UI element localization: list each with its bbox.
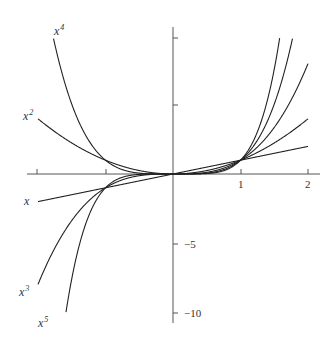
label-x5: x5 (37, 315, 48, 330)
label-x: x (23, 194, 30, 208)
x-tick-label-1: 1 (238, 178, 244, 190)
label-x2: x2 (22, 108, 33, 123)
y-ticks (173, 38, 178, 313)
label-x3: x3 (18, 284, 29, 299)
x-tick-label-2: 2 (305, 178, 311, 190)
y-tick-label-neg5: −5 (184, 238, 196, 250)
y-tick-label-neg10: −10 (184, 307, 202, 319)
label-x4: x4 (53, 23, 64, 38)
power-functions-chart: 1 2 −5 −10 x4 x2 x x3 x5 (0, 0, 334, 342)
